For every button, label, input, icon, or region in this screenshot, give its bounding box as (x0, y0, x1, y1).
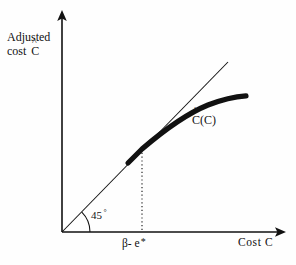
curve-label-symbol-group: ^ C (190, 114, 200, 127)
degree-symbol-icon: ° (104, 208, 107, 217)
curve-label-argument: (C) (200, 113, 216, 127)
angle-value: 45 (91, 209, 102, 221)
y-axis-label-line2: cost (7, 44, 26, 58)
angle-arc (82, 212, 90, 232)
threshold-minus: - (128, 237, 132, 249)
circumflex-accent-icon: ^ (32, 37, 37, 47)
threshold-label: β- e* (122, 236, 146, 250)
y-axis-label-line1: Adjusted (7, 30, 50, 44)
circumflex-accent-icon: ^ (193, 106, 198, 116)
threshold-e: e (135, 237, 140, 249)
angle-label: 45° (91, 209, 107, 221)
adjusted-cost-figure: Adjusted cost ^ C Cost C ^ C (C) 45° β- … (0, 0, 296, 265)
x-axis-label: Cost C (238, 236, 273, 249)
curve-label: ^ C (C) (190, 114, 216, 127)
adjusted-cost-curve (128, 96, 246, 163)
y-axis-label: Adjusted cost ^ C (7, 31, 50, 59)
y-axis-label-symbol-group: ^ C (29, 45, 39, 58)
threshold-star-icon: * (141, 236, 146, 247)
y-axis-label-line2-group: cost ^ C (7, 45, 50, 58)
